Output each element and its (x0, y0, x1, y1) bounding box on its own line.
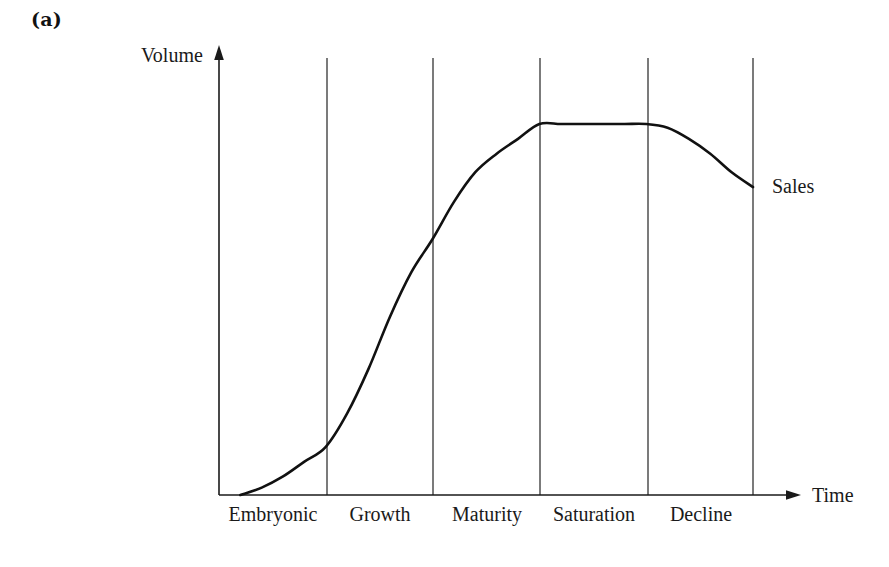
x-axis-title: Time (812, 484, 854, 506)
stage-label-growth: Growth (349, 503, 410, 525)
stage-label-decline: Decline (670, 503, 732, 525)
y-axis-title: Volume (141, 44, 203, 66)
x-axis (219, 490, 801, 500)
y-axis (214, 45, 224, 495)
arrow-up-icon (214, 45, 224, 60)
figure-root: (a) Volume Time Sales Embryonic Gro (0, 0, 889, 567)
stage-label-saturation: Saturation (553, 503, 635, 525)
series-label-sales: Sales (772, 175, 814, 197)
stage-label-maturity: Maturity (452, 503, 522, 526)
arrow-right-icon (786, 490, 801, 500)
product-life-cycle-chart: Volume Time Sales Embryonic Growth Matur… (0, 0, 889, 567)
stage-label-embryonic: Embryonic (229, 503, 318, 526)
sales-curve (240, 123, 753, 495)
